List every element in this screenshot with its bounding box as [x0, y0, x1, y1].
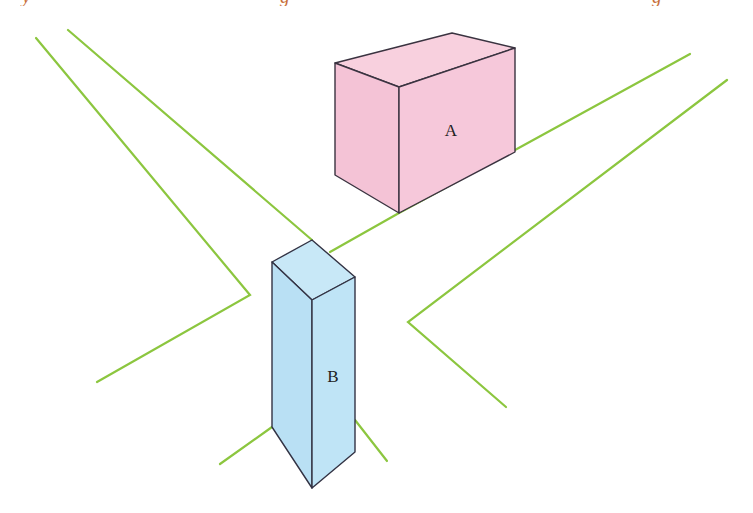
road-line-bottom-right — [355, 420, 387, 461]
road-line-left-outer — [36, 38, 250, 382]
box-b-left-face — [272, 262, 312, 488]
box-b-label: B — [327, 367, 338, 386]
road-line-bottom-left — [220, 427, 272, 464]
box-b: B — [272, 240, 355, 488]
box-a: A — [335, 33, 515, 213]
box-a-left-face — [335, 63, 399, 213]
road-line-left-inner — [68, 30, 312, 240]
perspective-diagram: A B — [0, 0, 753, 513]
box-a-label: A — [445, 121, 458, 140]
